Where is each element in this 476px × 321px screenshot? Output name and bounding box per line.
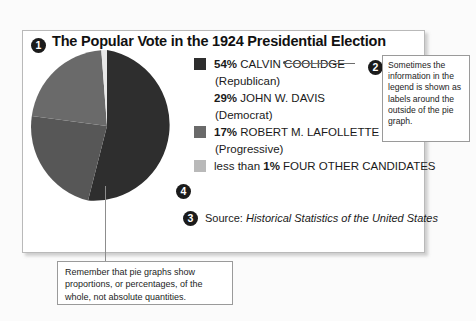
legend-label-coolidge: 54% CALVIN COOLIDGE — [214, 57, 345, 71]
pie-chart-svg — [31, 50, 183, 202]
legend-name-lafollette: ROBERT M. LAFOLLETTE — [240, 126, 379, 138]
legend-item-others: less than 1% FOUR OTHER CANDIDATES — [194, 159, 399, 174]
legend-swatch-coolidge — [194, 58, 206, 70]
legend-party-davis: (Democrat) — [215, 108, 399, 122]
legend-swatch-davis — [194, 92, 206, 104]
legend-connector-line — [285, 63, 355, 64]
callout-box-2-text: Sometimes the information in the legend … — [388, 60, 464, 127]
legend-swatch-others — [194, 160, 206, 172]
legend-label-davis: 29% JOHN W. DAVIS — [214, 91, 325, 105]
legend-percent-lafollette: 17% — [214, 126, 237, 138]
page-title: The Popular Vote in the 1924 Presidentia… — [52, 33, 386, 49]
chart-legend: 54% CALVIN COOLIDGE (Republican) 29% JOH… — [194, 57, 399, 176]
legend-name-davis: JOHN W. DAVIS — [240, 92, 325, 104]
legend-party-coolidge: (Republican) — [215, 74, 399, 88]
legend-item-davis: 29% JOHN W. DAVIS — [194, 91, 399, 106]
source-title: Historical Statistics of the United Stat… — [246, 212, 438, 224]
callout-box-bottom-text: Remember that pie graphs show proportion… — [65, 266, 225, 303]
legend-others-prefix: less than — [214, 160, 263, 172]
source-prefix: Source: — [205, 212, 246, 224]
legend-percent-davis: 29% — [214, 92, 237, 104]
source-note: Source: Historical Statistics of the Uni… — [205, 211, 438, 226]
callout-badge-4: 4 — [176, 184, 191, 199]
callout-box-2: Sometimes the information in the legend … — [382, 55, 470, 142]
legend-percent-coolidge: 54% — [214, 58, 237, 70]
callout-box-bottom: Remember that pie graphs show proportion… — [57, 261, 233, 305]
legend-others-name: FOUR OTHER CANDIDATES — [280, 160, 436, 172]
pie-slice-lafollette — [32, 50, 107, 126]
legend-name-coolidge: CALVIN COOLIDGE — [240, 58, 345, 70]
legend-swatch-lafollette — [194, 126, 206, 138]
pie-chart — [31, 50, 183, 202]
legend-others-percent: 1% — [263, 160, 280, 172]
callout-badge-2: 2 — [368, 60, 383, 75]
legend-item-lafollette: 17% ROBERT M. LAFOLLETTE — [194, 125, 399, 140]
legend-label-others: less than 1% FOUR OTHER CANDIDATES — [214, 159, 436, 173]
legend-label-lafollette: 17% ROBERT M. LAFOLLETTE — [214, 125, 379, 139]
legend-party-lafollette: (Progressive) — [215, 142, 399, 156]
pie-leader-line — [105, 186, 106, 261]
callout-badge-3: 3 — [183, 211, 198, 226]
